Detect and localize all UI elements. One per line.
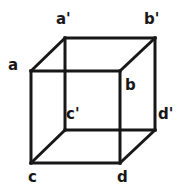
vertex-label-d-prime: d' <box>158 107 173 122</box>
vertex-label-a-prime: a' <box>56 12 71 27</box>
vertex-label-b-prime: b' <box>144 12 159 27</box>
vertex-label-c: c <box>28 170 37 185</box>
vertex-label-c-prime: c' <box>66 107 79 122</box>
vertex-label-d: d <box>117 170 128 185</box>
edge-a-ap <box>31 38 65 71</box>
edge-c-cp <box>31 130 65 163</box>
vertex-label-b: b <box>125 78 136 93</box>
edge-d-dp <box>120 130 155 163</box>
edge-b-bp <box>120 38 155 71</box>
cube-diagram: a'b'abc'd'cd <box>0 0 182 191</box>
vertex-label-a: a <box>8 58 18 73</box>
cube-wireframe-svg <box>0 0 182 191</box>
